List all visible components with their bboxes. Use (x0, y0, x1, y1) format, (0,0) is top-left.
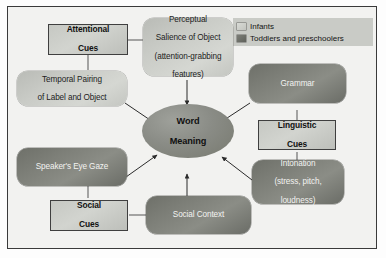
node-perceptual-salience: PerceptualSalience of Object(attention-g… (143, 18, 233, 76)
node-perceptual-salience-text: PerceptualSalience of Object(attention-g… (151, 15, 226, 79)
legend: Infants Toddlers and preschoolers (233, 18, 373, 46)
legend-label-toddlers: Toddlers and preschoolers (250, 34, 344, 43)
node-speakers-eye-gaze-text: Speaker's Eye Gaze (34, 162, 111, 171)
arrow-intonation-to-center (222, 157, 252, 180)
arrow-eyegaze-to-center (126, 155, 157, 177)
node-intonation: Intonation(stress, pitch,loudness) (252, 160, 344, 204)
figure-canvas: Infants Toddlers and preschoolers Attent… (0, 0, 386, 258)
node-grammar: Grammar (249, 64, 346, 103)
node-speakers-eye-gaze: Speaker's Eye Gaze (17, 148, 127, 186)
legend-item-infants: Infants (237, 20, 370, 32)
node-social-context: Social Context (146, 196, 251, 234)
node-word-meaning: WordMeaning (142, 104, 234, 158)
category-box-linguistic-cues-text: LinguisticCues (274, 121, 321, 149)
node-temporal-pairing: Temporal Pairingof Label and Object (17, 71, 127, 106)
node-grammar-text: Grammar (279, 79, 317, 88)
category-box-social-cues-text: SocialCues (73, 201, 105, 229)
category-box-attentional-cues-text: AttentionalCues (63, 25, 114, 53)
node-temporal-pairing-text: Temporal Pairingof Label and Object (33, 75, 110, 103)
node-intonation-text: Intonation(stress, pitch,loudness) (270, 159, 325, 205)
category-box-attentional-cues: AttentionalCues (48, 24, 128, 55)
node-word-meaning-text: WordMeaning (166, 116, 211, 147)
legend-label-infants: Infants (250, 22, 274, 31)
node-social-context-text: Social Context (171, 210, 226, 219)
legend-item-toddlers: Toddlers and preschoolers (237, 32, 370, 44)
legend-swatch-icon-toddlers (237, 35, 246, 42)
legend-swatch-icon-infants (237, 23, 246, 30)
category-box-social-cues: SocialCues (50, 200, 128, 231)
diagram-stage: Infants Toddlers and preschoolers Attent… (0, 0, 386, 258)
category-box-linguistic-cues: LinguisticCues (258, 120, 336, 150)
